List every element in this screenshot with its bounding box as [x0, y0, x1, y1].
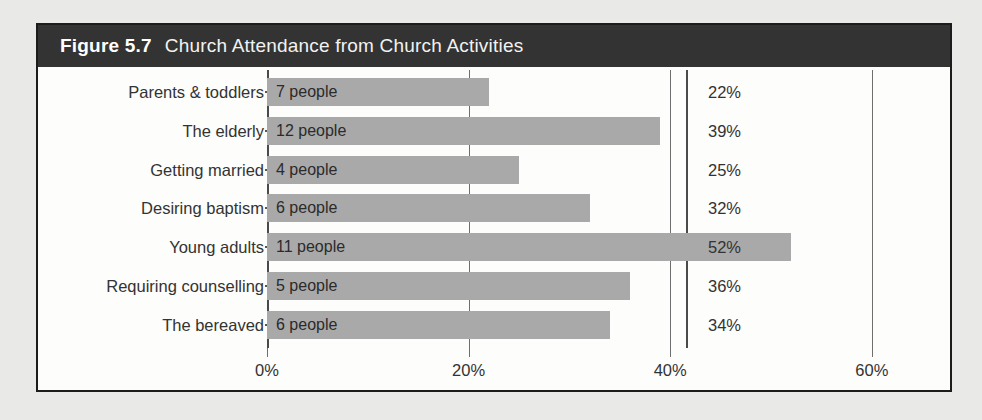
percent-label: 36%: [708, 272, 741, 300]
figure-header: Figure 5.7 Church Attendance from Church…: [38, 25, 950, 67]
percent-label: 32%: [708, 194, 741, 222]
figure-frame: Figure 5.7 Church Attendance from Church…: [36, 23, 952, 392]
category-label: Getting married: [150, 160, 264, 180]
figure-caption: Church Attendance from Church Activities: [165, 35, 524, 57]
percent-label: 39%: [708, 117, 741, 145]
bar-value-label: 6 people: [267, 194, 337, 222]
category-label: The bereaved: [162, 315, 264, 335]
bar-value-label: 5 people: [267, 272, 337, 300]
x-axis-tick-label: 20%: [452, 361, 485, 380]
x-axis-tick-label: 0%: [255, 361, 279, 380]
figure-number: Figure 5.7: [60, 35, 152, 57]
category-label: Young adults: [169, 237, 264, 257]
bar-value-label: 12 people: [267, 117, 346, 145]
x-axis-tick-label: 40%: [654, 361, 687, 380]
bar-value-label: 7 people: [267, 78, 337, 106]
percent-label: 52%: [708, 233, 741, 261]
x-axis-tick-40: [670, 348, 671, 357]
percent-label: 25%: [708, 156, 741, 184]
category-label: The elderly: [182, 121, 264, 141]
percent-label: 34%: [708, 311, 741, 339]
category-label: Desiring baptism: [141, 198, 264, 218]
category-label: Requiring counselling: [106, 276, 264, 296]
bar-value-label: 11 people: [267, 233, 345, 261]
bar-value-label: 4 people: [267, 156, 337, 184]
bar-value-label: 6 people: [267, 311, 337, 339]
x-axis-tick-60: [872, 348, 873, 357]
x-axis-tick-0: [267, 348, 268, 357]
gridline-60: [872, 70, 873, 348]
gridline-40: [670, 70, 671, 348]
x-axis-tick-20: [469, 348, 470, 357]
percent-column-divider: [686, 70, 688, 348]
percent-label: 22%: [708, 78, 741, 106]
category-label: Parents & toddlers: [128, 82, 264, 102]
bar-chart-plot-area: Parents & toddlers7 people22%The elderly…: [38, 67, 950, 392]
x-axis-tick-label: 60%: [855, 361, 888, 380]
